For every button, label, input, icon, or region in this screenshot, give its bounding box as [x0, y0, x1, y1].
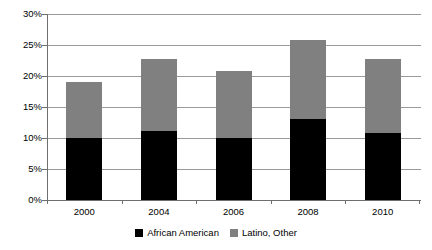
bar-group[interactable]	[365, 14, 401, 200]
y-tick-label: 0%	[2, 195, 42, 205]
x-tick-mark	[122, 200, 123, 204]
x-tick-mark	[196, 200, 197, 204]
legend-entry[interactable]: African American	[135, 228, 219, 238]
bar-segment[interactable]	[66, 82, 102, 138]
bars-layer	[47, 14, 420, 200]
legend-swatch-icon	[135, 229, 143, 237]
legend-swatch-icon	[230, 229, 238, 237]
y-axis: 0%5%10%15%20%25%30%	[0, 0, 42, 250]
y-tick-label: 20%	[2, 71, 42, 81]
bar-segment[interactable]	[141, 59, 177, 131]
y-tick-label: 25%	[2, 40, 42, 50]
x-tick-label: 2000	[54, 206, 114, 217]
bar-segment[interactable]	[141, 131, 177, 200]
chart-legend: African AmericanLatino, Other	[0, 228, 432, 238]
y-tick-label: 10%	[2, 133, 42, 143]
x-tick-mark	[271, 200, 272, 204]
stacked-bar-chart: 0%5%10%15%20%25%30% 20002004200620082010…	[0, 0, 432, 250]
bar-group[interactable]	[216, 14, 252, 200]
x-tick-label: 2006	[204, 206, 264, 217]
legend-label: Latino, Other	[242, 228, 297, 238]
bar-segment[interactable]	[365, 133, 401, 200]
y-tick-label: 15%	[2, 102, 42, 112]
y-tick-label: 5%	[2, 164, 42, 174]
bar-segment[interactable]	[290, 40, 326, 119]
y-tick-label: 30%	[2, 9, 42, 19]
x-tick-mark	[345, 200, 346, 204]
bar-segment[interactable]	[66, 138, 102, 200]
x-tick-mark	[47, 200, 48, 204]
legend-label: African American	[147, 228, 219, 238]
bar-group[interactable]	[290, 14, 326, 200]
bar-segment[interactable]	[216, 138, 252, 200]
x-axis: 20002004200620082010	[47, 200, 420, 222]
x-tick-mark	[419, 200, 420, 204]
legend-entry[interactable]: Latino, Other	[230, 228, 297, 238]
bar-segment[interactable]	[365, 59, 401, 133]
bar-group[interactable]	[141, 14, 177, 200]
bar-group[interactable]	[66, 14, 102, 200]
bar-segment[interactable]	[216, 71, 252, 138]
x-tick-label: 2008	[278, 206, 338, 217]
x-tick-label: 2004	[129, 206, 189, 217]
x-tick-label: 2010	[353, 206, 413, 217]
bar-segment[interactable]	[290, 119, 326, 200]
